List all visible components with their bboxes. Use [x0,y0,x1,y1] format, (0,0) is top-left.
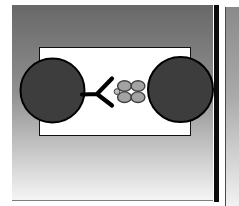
slide-view [0,0,239,206]
next-slide-edge[interactable] [225,7,239,206]
slide-shadow [214,5,219,202]
diagram-panel [39,47,191,136]
slide-thumbnail[interactable] [12,5,213,201]
